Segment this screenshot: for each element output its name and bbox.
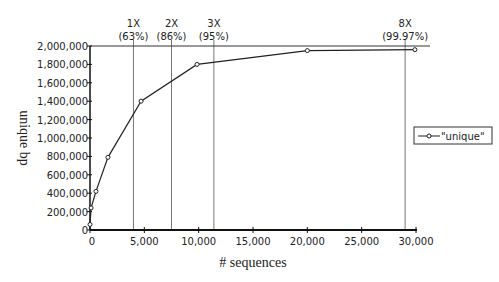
- legend: "unique": [414, 127, 492, 144]
- y-tick-label: 2,000,000: [37, 41, 88, 52]
- y-tick-label: 200,000: [47, 207, 88, 218]
- data-point: [94, 189, 98, 193]
- y-tick-label: 1,400,000: [37, 96, 88, 107]
- data-point: [88, 222, 92, 226]
- x-tick-label: 25,000: [344, 236, 379, 247]
- legend-label: "unique": [441, 131, 485, 142]
- series-line: [90, 50, 415, 225]
- legend-marker: [427, 134, 431, 138]
- y-tick-label: 800,000: [47, 151, 88, 162]
- x-tick-label: 10,000: [181, 236, 216, 247]
- x-tick-label: 5,000: [130, 236, 159, 247]
- data-point: [139, 99, 143, 103]
- x-tick-label: 15,000: [236, 236, 271, 247]
- coverage-label-percent: (86%): [156, 31, 186, 42]
- y-tick-label: 1,800,000: [37, 59, 88, 70]
- y-tick-label: 1,000,000: [37, 133, 88, 144]
- y-axis-title: unique bp: [17, 110, 32, 166]
- y-tick-label: 1,200,000: [37, 115, 88, 126]
- data-point: [89, 206, 93, 210]
- data-point: [305, 49, 309, 53]
- x-axis-title: # sequences: [219, 255, 286, 270]
- y-tick-label: 400,000: [47, 188, 88, 199]
- coverage-label-fold: 2X: [165, 18, 178, 29]
- y-tick-label: 600,000: [47, 170, 88, 181]
- y-tick-label: 0: [82, 225, 88, 236]
- data-point: [106, 155, 110, 159]
- chart: 1X(63%)2X(86%)3X(95%)8X(99.97%) 05,00010…: [0, 0, 499, 282]
- coverage-label-percent: (63%): [118, 31, 148, 42]
- coverage-label-percent: (99.97%): [382, 31, 428, 42]
- data-point: [195, 62, 199, 66]
- x-tick-label: 0: [89, 236, 95, 247]
- data-point: [413, 48, 417, 52]
- axes: 05,00010,00015,00020,00025,00030,0000200…: [37, 41, 433, 247]
- coverage-label-fold: 8X: [399, 18, 412, 29]
- x-tick-label: 30,000: [399, 236, 434, 247]
- y-tick-label: 1,600,000: [37, 78, 88, 89]
- series-unique: [88, 48, 417, 227]
- coverage-label-percent: (95%): [199, 31, 229, 42]
- coverage-label-fold: 1X: [127, 18, 140, 29]
- coverage-label-fold: 3X: [207, 18, 220, 29]
- x-tick-label: 20,000: [290, 236, 325, 247]
